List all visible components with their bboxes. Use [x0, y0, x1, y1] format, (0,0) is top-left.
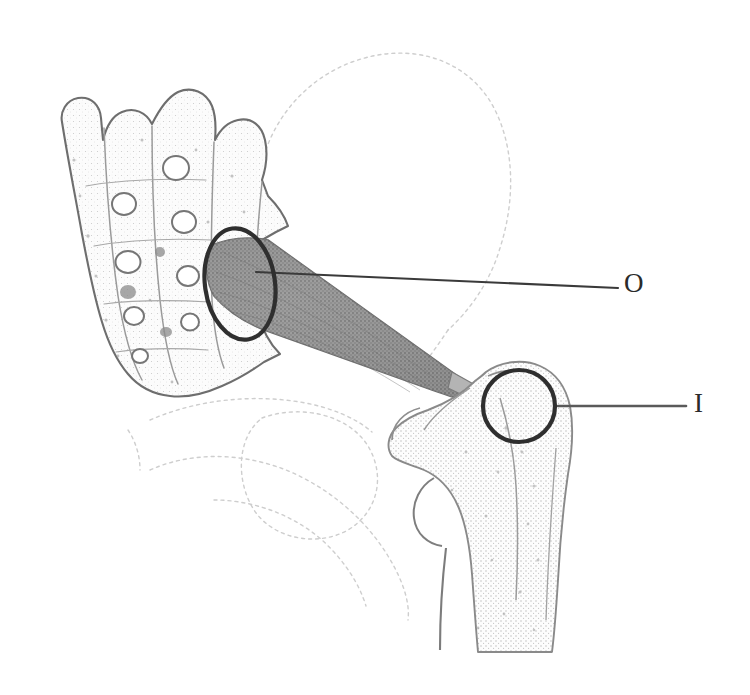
sacral-foramen: [181, 314, 199, 331]
insertion-label: I: [694, 390, 704, 417]
sacral-foramen: [112, 193, 136, 215]
sacral-foramen: [172, 211, 196, 233]
anatomy-illustration: [0, 0, 750, 695]
origin-label: O: [624, 270, 644, 297]
anatomy-figure: O I: [0, 0, 750, 695]
sacral-foramen: [163, 156, 189, 180]
sacral-foramen: [124, 307, 144, 325]
sacral-foramen: [116, 251, 141, 273]
sacral-foramen: [177, 266, 199, 286]
sacral-foramen: [132, 349, 148, 363]
